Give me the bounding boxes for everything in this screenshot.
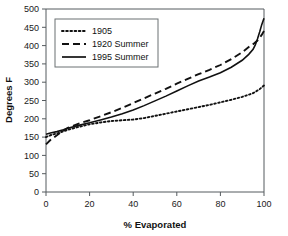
chart-container: 050100150200250300350400450500 020406080…: [0, 0, 288, 236]
y-tick-label: 100: [24, 151, 39, 161]
y-tick-label: 200: [24, 114, 39, 124]
x-axis-title: % Evaporated: [124, 219, 187, 230]
y-tick-label: 50: [29, 169, 39, 179]
x-tick-label: 60: [172, 199, 182, 209]
legend: 1905 1920 Summer 1995 Summer: [55, 19, 158, 67]
y-axis-ticks: 050100150200250300350400450500: [24, 4, 46, 197]
x-tick-label: 20: [85, 199, 95, 209]
x-axis-ticks: 020406080100: [43, 192, 271, 209]
y-tick-label: 450: [24, 23, 39, 33]
y-tick-label: 0: [34, 187, 39, 197]
x-tick-label: 40: [128, 199, 138, 209]
legend-label-1995-summer: 1995 Summer: [92, 52, 149, 62]
y-axis-title: Degrees F: [3, 77, 14, 123]
x-tick-label: 0: [43, 199, 48, 209]
x-tick-label: 100: [256, 199, 271, 209]
y-tick-label: 500: [24, 4, 39, 14]
y-tick-label: 150: [24, 132, 39, 142]
line-chart: 050100150200250300350400450500 020406080…: [0, 0, 288, 236]
y-tick-label: 250: [24, 96, 39, 106]
y-tick-label: 350: [24, 59, 39, 69]
y-tick-label: 300: [24, 77, 39, 87]
x-tick-label: 80: [215, 199, 225, 209]
legend-label-1905: 1905: [92, 26, 112, 36]
legend-label-1920-summer: 1920 Summer: [92, 39, 149, 49]
y-tick-label: 400: [24, 41, 39, 51]
